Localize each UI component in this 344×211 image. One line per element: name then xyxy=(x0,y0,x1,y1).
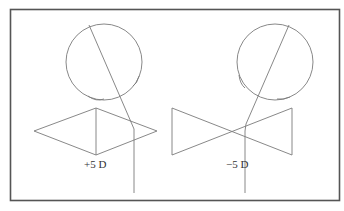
visual-axis-ray-right xyxy=(245,25,289,193)
lens-power-label-minus: −5 D xyxy=(226,158,248,170)
eye-globe-left xyxy=(66,24,142,100)
eye-detail-arc-left-2 xyxy=(133,76,139,86)
eye-globe-right xyxy=(237,24,313,100)
lens-power-label-plus: +5 D xyxy=(84,158,106,170)
figure-frame xyxy=(11,10,340,201)
lens-diagram: +5 D −5 D xyxy=(0,0,344,211)
convex-lens-diamond xyxy=(34,108,157,155)
eye-detail-arc-left-1 xyxy=(88,96,104,100)
concave-lens-bowtie-a xyxy=(172,108,292,155)
